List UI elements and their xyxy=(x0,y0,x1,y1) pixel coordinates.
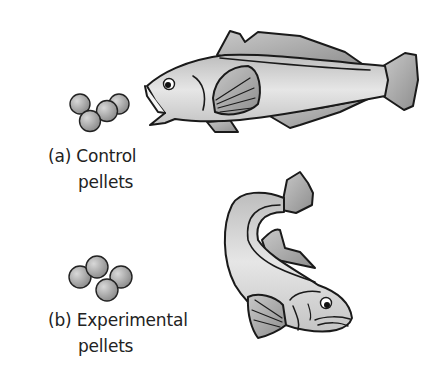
panel-a-subtitle: pellets xyxy=(78,174,133,191)
fish-eating xyxy=(145,31,418,132)
fish-turning-away xyxy=(225,172,352,338)
panel-b-label: (b) Experimental xyxy=(48,312,188,329)
panel-b-marker: (b) xyxy=(48,310,71,330)
panel-a-title: Control xyxy=(76,146,136,166)
panel-a-marker: (a) xyxy=(48,146,71,166)
control-pellets xyxy=(70,94,129,132)
panel-a-label: (a) Control xyxy=(48,148,136,165)
experimental-pellets xyxy=(69,256,132,301)
panel-b-subtitle: pellets xyxy=(78,338,133,355)
panel-b-title: Experimental xyxy=(77,310,188,330)
